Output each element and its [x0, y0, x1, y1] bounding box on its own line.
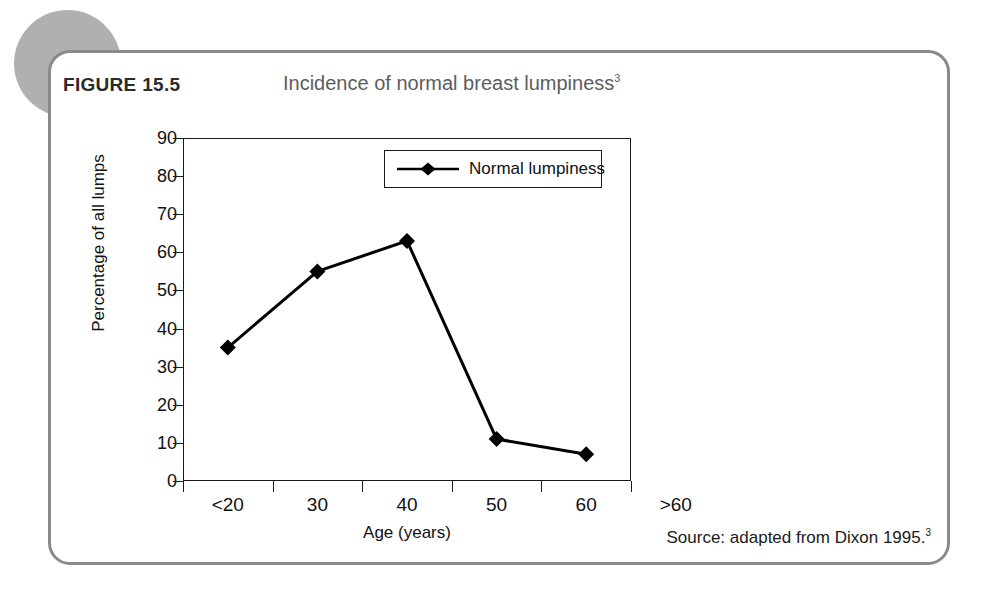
y-axis-tick-mark [173, 290, 183, 291]
y-axis-tick-labels: 0102030405060708090 [137, 138, 177, 481]
y-axis-tick-label: 70 [143, 204, 177, 225]
y-axis-tick-mark [173, 176, 183, 177]
series-data-point [578, 446, 594, 462]
y-axis-tick-mark [173, 329, 183, 330]
series-data-point [489, 431, 505, 447]
chart-area: Percentage of all lumps 0102030405060708… [51, 53, 947, 562]
x-axis-tick-label: 60 [576, 494, 597, 516]
y-axis-tick-mark [173, 214, 183, 215]
y-axis-tick-mark [173, 367, 183, 368]
y-axis-tick-marks [173, 138, 183, 481]
x-axis-tick-marks [183, 481, 631, 492]
x-axis-tick-label: <20 [212, 494, 244, 516]
y-axis-tick-mark [173, 405, 183, 406]
x-axis-title: Age (years) [183, 523, 631, 543]
data-line-series [183, 138, 631, 481]
y-axis-tick-label: 20 [143, 394, 177, 415]
legend-entry-label: Normal lumpiness [469, 159, 605, 179]
y-axis-tick-mark [173, 443, 183, 444]
x-axis-tick-mark [452, 481, 453, 492]
y-axis-tick-label: 50 [143, 280, 177, 301]
legend-marker-icon [397, 162, 459, 176]
x-axis-tick-label: >60 [660, 494, 692, 516]
source-note-text: Source: adapted from Dixon 1995. [667, 528, 926, 547]
series-data-point [399, 233, 415, 249]
source-note-superscript: 3 [925, 527, 931, 538]
source-note: Source: adapted from Dixon 1995.3 [667, 527, 932, 548]
figure-frame: FIGURE 15.5 Incidence of normal breast l… [48, 50, 950, 565]
y-axis-tick-label: 30 [143, 356, 177, 377]
y-axis-tick-label: 60 [143, 242, 177, 263]
y-axis-tick-mark [173, 252, 183, 253]
y-axis-tick-mark [173, 138, 183, 139]
chart-legend: Normal lumpiness [384, 150, 602, 188]
x-axis-tick-mark [362, 481, 363, 492]
y-axis-tick-label: 90 [143, 128, 177, 149]
y-axis-title: Percentage of all lumps [89, 133, 109, 353]
y-axis-tick-label: 80 [143, 166, 177, 187]
x-axis-tick-mark [273, 481, 274, 492]
x-axis-tick-label: 30 [307, 494, 328, 516]
x-axis-tick-mark [541, 481, 542, 492]
x-axis-tick-mark [183, 481, 184, 492]
y-axis-tick-label: 40 [143, 318, 177, 339]
y-axis-tick-label: 10 [143, 432, 177, 453]
x-axis-tick-labels: <2030405060>60 [183, 494, 631, 520]
x-axis-tick-label: 40 [396, 494, 417, 516]
x-axis-tick-mark [631, 481, 632, 492]
series-line [228, 241, 586, 454]
y-axis-tick-label: 0 [143, 471, 177, 492]
y-axis-tick-mark [173, 481, 183, 482]
x-axis-tick-label: 50 [486, 494, 507, 516]
